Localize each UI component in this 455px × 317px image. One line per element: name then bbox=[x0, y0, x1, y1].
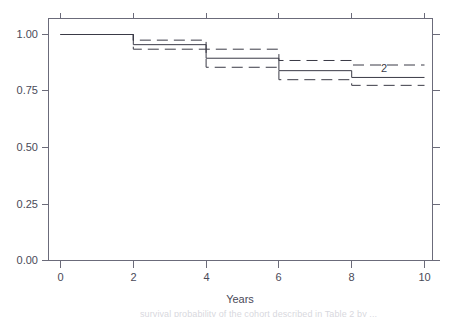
x-tick-label-2: 2 bbox=[130, 271, 136, 283]
y-tick-label-1-00: 1.00 bbox=[17, 28, 38, 40]
plot-canvas: 1.00 0.75 0.50 0.25 0.00 0 2 4 6 8 10 Ye… bbox=[0, 0, 455, 317]
x-tick-label-0: 0 bbox=[57, 271, 63, 283]
y-tick-label-0-00: 0.00 bbox=[17, 254, 38, 266]
survival-curve bbox=[61, 35, 425, 78]
x-tick-label-8: 8 bbox=[348, 271, 354, 283]
x-tick-label-6: 6 bbox=[275, 271, 281, 283]
y-axis-ticks bbox=[42, 35, 49, 261]
plot-frame bbox=[49, 19, 433, 261]
survival-curves bbox=[61, 35, 425, 86]
x-axis-title: Years bbox=[226, 293, 254, 305]
x-tick-label-4: 4 bbox=[203, 271, 209, 283]
upper-ci-curve bbox=[61, 35, 425, 66]
y-tick-label-0-75: 0.75 bbox=[17, 84, 38, 96]
y-tick-label-0-50: 0.50 bbox=[17, 141, 38, 153]
top-axis-ticks bbox=[61, 13, 425, 19]
x-axis-ticks bbox=[61, 261, 425, 268]
survival-plot-figure: 1.00 0.75 0.50 0.25 0.00 0 2 4 6 8 10 Ye… bbox=[0, 0, 455, 317]
curve-annotation-2: 2 bbox=[381, 62, 387, 74]
right-axis-ticks bbox=[433, 35, 440, 261]
x-tick-label-10: 10 bbox=[418, 271, 430, 283]
page-caption-fragment: survival probability of the cohort descr… bbox=[140, 309, 455, 317]
y-tick-label-0-25: 0.25 bbox=[17, 198, 38, 210]
